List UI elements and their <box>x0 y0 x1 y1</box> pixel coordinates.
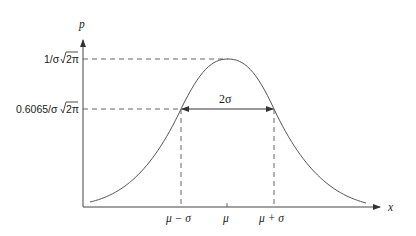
svg-text:0.6065/σ: 0.6065/σ <box>16 103 58 115</box>
x-axis-label: x <box>387 201 394 213</box>
x-tick-mu: μ <box>222 212 229 225</box>
y-tick-peak: 1/σ 2π <box>44 52 79 65</box>
x-tick-mu-minus-sigma: μ − σ <box>165 212 192 225</box>
x-tick-mu-plus-sigma: μ + σ <box>258 212 285 225</box>
svg-text:2π: 2π <box>66 103 79 115</box>
svg-text:1/σ: 1/σ <box>44 53 60 65</box>
svg-text:2π: 2π <box>66 53 79 65</box>
two-sigma-label: 2σ <box>219 92 232 106</box>
y-tick-inflection: 0.6065/σ 2π <box>16 102 79 115</box>
y-axis-label: p <box>78 18 85 31</box>
normal-distribution-chart: p x 2σ 1/σ 2π 0.6065/σ 2π μ − σ μ μ + σ <box>0 0 416 236</box>
bell-curve <box>90 59 366 203</box>
